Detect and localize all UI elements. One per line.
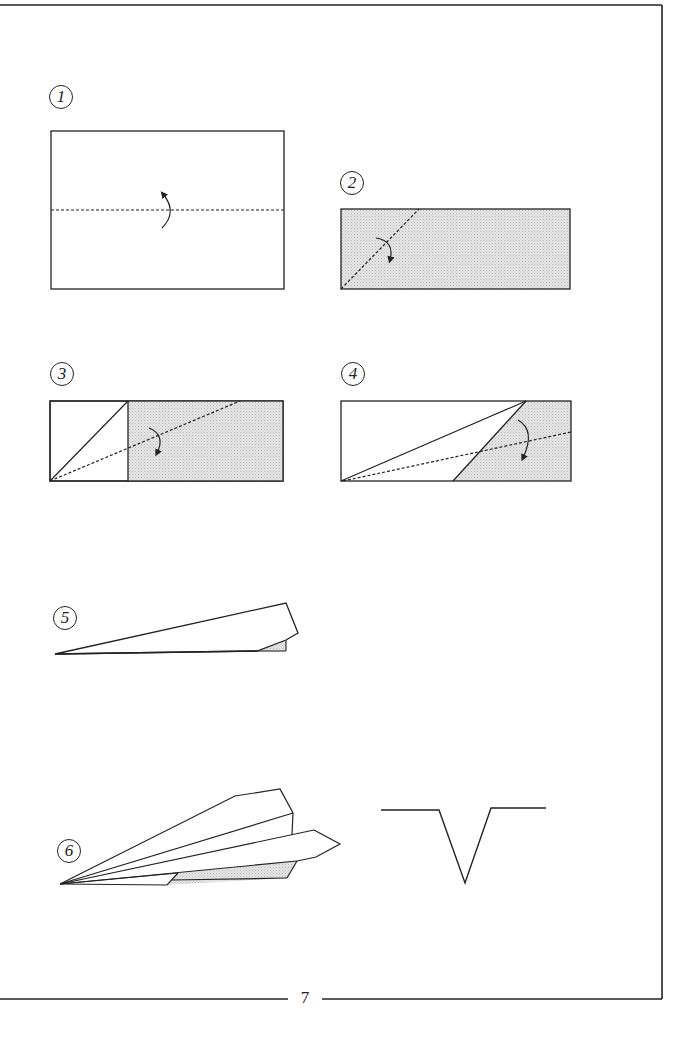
origami-instruction-page: [0, 0, 692, 1039]
step-number-4: 4: [341, 362, 365, 386]
step-5-diagram: [55, 603, 298, 654]
step-3-diagram: [50, 401, 283, 481]
step-2-diagram: [341, 209, 570, 289]
airplane-front-view: [381, 808, 546, 883]
step-1-diagram: [51, 131, 284, 289]
step-number-1: 1: [49, 85, 73, 109]
step-number-6: 6: [57, 839, 81, 863]
step-4-diagram: [341, 401, 571, 481]
step-number-2: 2: [340, 171, 364, 195]
step-6-airplane: [60, 789, 340, 885]
step-number-5: 5: [53, 606, 77, 630]
step-number-3: 3: [50, 362, 74, 386]
page-number: 7: [292, 987, 318, 1009]
